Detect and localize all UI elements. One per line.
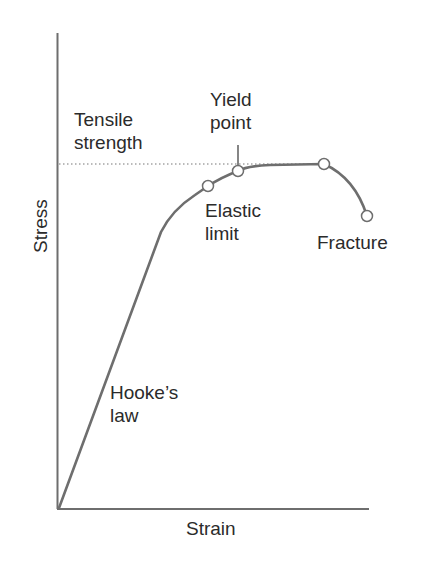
elastic-limit-marker [203, 181, 214, 192]
fracture-marker [362, 211, 373, 222]
elastic-limit-label: Elastic limit [205, 199, 261, 245]
stress-strain-diagram [0, 0, 422, 563]
yield-point-label: Yield point [210, 88, 252, 134]
tensile-strength-label-line1: Tensile [74, 108, 143, 131]
tensile-strength-marker [319, 159, 330, 170]
x-axis-label: Strain [186, 517, 236, 540]
hookes-law-label-line2: law [110, 404, 178, 427]
hookes-law-label-line1: Hooke’s [110, 381, 178, 404]
elastic-limit-label-line1: Elastic [205, 199, 261, 222]
tensile-strength-label: Tensile strength [74, 108, 143, 154]
yield-point-label-line1: Yield [210, 88, 252, 111]
yield-point-label-line2: point [210, 111, 252, 134]
tensile-strength-label-line2: strength [74, 131, 143, 154]
fracture-label: Fracture [317, 231, 388, 254]
elastic-limit-label-line2: limit [205, 222, 261, 245]
hookes-law-label: Hooke’s law [110, 381, 178, 427]
y-axis-label: Stress [30, 199, 52, 253]
yield-point-marker [233, 166, 244, 177]
